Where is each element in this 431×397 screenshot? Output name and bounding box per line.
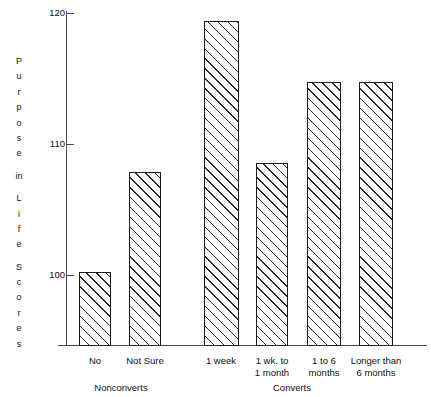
y-axis-label-char: r bbox=[8, 306, 30, 321]
x-axis-label-longer-than-6-months: Longer than 6 months bbox=[339, 355, 413, 378]
y-axis-label-char: o bbox=[8, 290, 30, 305]
bar-chart-figure: P u r p o s e in L i f e S c o r e s 120… bbox=[0, 0, 431, 397]
y-axis-tick-label-120: 120 bbox=[25, 8, 65, 18]
y-axis-label-char: u bbox=[8, 69, 30, 84]
y-axis-label-char: P bbox=[8, 54, 30, 69]
y-axis-tick-110 bbox=[67, 144, 74, 145]
bar-1wk-to-1month bbox=[256, 163, 288, 346]
y-axis-tick-120 bbox=[67, 13, 74, 14]
y-axis-tick-100 bbox=[67, 275, 74, 276]
y-axis-label-char: L bbox=[8, 191, 30, 206]
bar-not-sure bbox=[129, 172, 161, 346]
y-axis-label-spacer bbox=[8, 162, 30, 169]
y-axis-label-char: e bbox=[8, 237, 30, 252]
y-axis-tick-label-110: 110 bbox=[25, 139, 65, 149]
bar-1-to-6-months bbox=[307, 82, 341, 346]
bar-no bbox=[79, 272, 111, 346]
y-axis-label-spacer bbox=[8, 253, 30, 260]
y-axis-label-word: in bbox=[8, 169, 30, 184]
y-axis-label-char: f bbox=[8, 222, 30, 237]
y-axis-label-char: p bbox=[8, 100, 30, 115]
x-axis-label-not-sure: Not Sure bbox=[113, 355, 177, 367]
y-axis-line bbox=[66, 11, 67, 346]
y-axis-label: P u r p o s e in L i f e S c o r e s bbox=[8, 54, 30, 352]
group-label-converts: Converts bbox=[232, 382, 352, 393]
y-axis-label-spacer bbox=[8, 184, 30, 191]
y-axis-label-char: s bbox=[8, 337, 30, 352]
bar-longer-than-6-months bbox=[359, 82, 393, 346]
group-label-nonconverts: Nonconverts bbox=[61, 382, 181, 393]
y-axis-label-char: e bbox=[8, 321, 30, 336]
y-axis-label-char: i bbox=[8, 207, 30, 222]
y-axis-label-char: r bbox=[8, 85, 30, 100]
bar-1-week bbox=[204, 21, 239, 346]
y-axis-label-char: o bbox=[8, 116, 30, 131]
y-axis-tick-label-100: 100 bbox=[25, 270, 65, 280]
